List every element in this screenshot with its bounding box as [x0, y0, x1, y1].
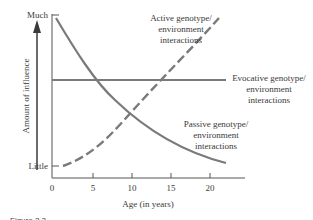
up-arrow-icon: [33, 20, 41, 33]
x-tick-label: 10: [128, 183, 138, 193]
svg-text:environment: environment: [158, 24, 204, 34]
passive-label: Passive genotype/ environment interactio…: [184, 119, 249, 151]
x-tick-label: 20: [206, 183, 216, 193]
x-tick-label: 15: [167, 183, 177, 193]
evocative-label: Evocative genotype/ environment interact…: [232, 73, 306, 105]
x-tick-label: 0: [50, 183, 55, 193]
figure-caption: Figure 2.3: [10, 216, 47, 220]
svg-text:Active genotype/: Active genotype/: [150, 13, 212, 23]
svg-text:environment: environment: [193, 130, 239, 140]
svg-text:Passive genotype/: Passive genotype/: [184, 119, 249, 129]
svg-text:interactions: interactions: [195, 141, 237, 151]
x-tick-label: 5: [91, 183, 96, 193]
x-ticks: [93, 173, 210, 178]
active-label: Active genotype/ environment interaction…: [150, 13, 212, 45]
y-tick-label-little: Little: [29, 161, 49, 171]
svg-text:interactions: interactions: [160, 35, 202, 45]
x-axis-label: Age (in years): [122, 199, 173, 209]
chart: Amount of influence Much Little 0 5 10 1…: [0, 0, 313, 220]
y-tick-label-much: Much: [27, 10, 48, 20]
svg-text:interactions: interactions: [248, 95, 290, 105]
y-axis-label: Amount of influence: [21, 59, 31, 134]
svg-text:Evocative genotype/: Evocative genotype/: [232, 73, 306, 83]
svg-text:environment: environment: [246, 84, 292, 94]
